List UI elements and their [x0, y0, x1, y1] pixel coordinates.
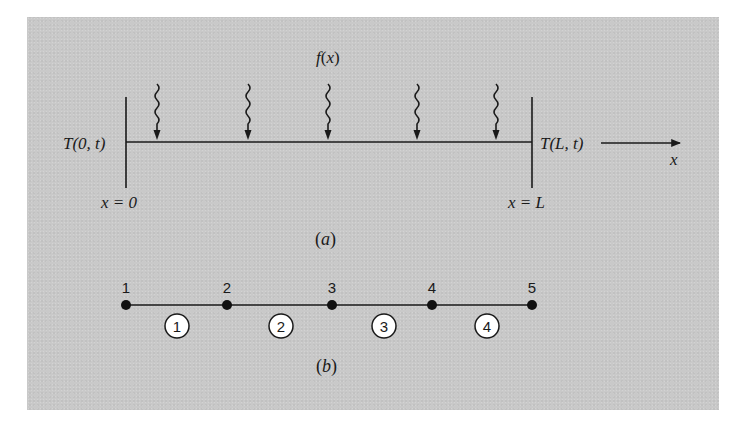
- left-position-label: x = 0: [100, 193, 138, 212]
- node-dot: [427, 300, 437, 310]
- element-marker: 2: [269, 314, 293, 338]
- element-label: 4: [483, 318, 491, 335]
- right-position-label: x = L: [507, 193, 545, 212]
- part-b: 1 2 3 4 5 1 2 3 4 (b): [121, 279, 537, 377]
- node-dot: [222, 300, 232, 310]
- node-label: 4: [428, 279, 436, 296]
- node-dot: [327, 300, 337, 310]
- x-axis-label: x: [669, 150, 678, 169]
- part-a: f(x) x T(0,: [63, 48, 680, 250]
- element-marker: 4: [475, 314, 499, 338]
- right-boundary-label: T(L, t): [540, 134, 584, 153]
- wavy-arrow-icon: [414, 84, 421, 140]
- node-label: 2: [223, 279, 231, 296]
- element-markers: 1 2 3 4: [165, 314, 499, 338]
- element-marker: 1: [165, 314, 189, 338]
- finite-element-rod-diagram: f(x) x T(0,: [0, 0, 742, 432]
- wavy-arrow-icon: [154, 84, 161, 140]
- source-label: f(x): [316, 48, 340, 67]
- part-a-label: (a): [315, 229, 336, 250]
- node-dot: [527, 300, 537, 310]
- part-b-label: (b): [316, 356, 337, 377]
- node-label: 3: [328, 279, 336, 296]
- left-boundary-label: T(0, t): [63, 134, 106, 153]
- node-dot: [121, 300, 131, 310]
- element-label: 3: [380, 318, 388, 335]
- element-label: 2: [277, 318, 285, 335]
- wavy-arrow-icon: [325, 84, 332, 140]
- element-marker: 3: [372, 314, 396, 338]
- node-label: 5: [528, 279, 536, 296]
- node-label: 1: [122, 279, 130, 296]
- heat-source-arrows: [154, 84, 500, 140]
- wavy-arrow-icon: [245, 84, 252, 140]
- wavy-arrow-icon: [493, 84, 500, 140]
- element-label: 1: [173, 318, 181, 335]
